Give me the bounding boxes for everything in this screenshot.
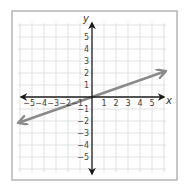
- x-axis-label: x: [165, 95, 172, 106]
- x-tick-label: 5: [149, 99, 154, 108]
- y-tick-label: 2: [84, 69, 89, 78]
- y-tick-label: −5: [77, 153, 89, 162]
- y-tick-label: −3: [77, 129, 89, 138]
- x-tick-label: −4: [35, 99, 47, 108]
- x-tick-label: 1: [101, 99, 106, 108]
- x-tick-label: 3: [125, 99, 130, 108]
- coordinate-graph: −5−4−3−2−112345 54321−1−2−3−4−5 x y: [0, 0, 184, 184]
- x-tick-label: 2: [113, 99, 118, 108]
- y-tick-label: 5: [84, 33, 89, 42]
- y-tick-label: −4: [77, 141, 89, 150]
- x-tick-label: −2: [59, 99, 71, 108]
- y-tick-label: 4: [84, 45, 89, 54]
- y-tick-label: −2: [77, 117, 89, 126]
- y-axis-label: y: [82, 13, 90, 24]
- y-tick-label: 3: [84, 57, 89, 66]
- x-tick-label: −3: [47, 99, 59, 108]
- x-tick-label: 4: [137, 99, 142, 108]
- y-tick-label: 1: [84, 81, 89, 90]
- y-tick-label: −1: [77, 105, 89, 114]
- x-tick-label: −5: [23, 99, 35, 108]
